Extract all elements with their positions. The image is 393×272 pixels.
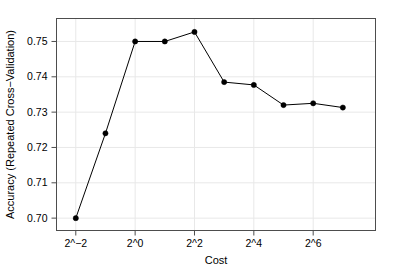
y-tick-label: 0.71 [27, 176, 48, 188]
x-tick-label: 2^2 [186, 237, 203, 249]
data-point [222, 80, 227, 85]
data-point [251, 82, 256, 87]
x-tick-label: 2^6 [305, 237, 322, 249]
data-point [73, 216, 78, 221]
data-point [192, 29, 197, 34]
x-tick-label: 2^4 [246, 237, 263, 249]
chart-container: 0.700.710.720.730.740.75 2^−22^02^22^42^… [0, 0, 393, 272]
data-point [311, 101, 316, 106]
y-tick-label: 0.72 [27, 141, 48, 153]
data-point [103, 131, 108, 136]
line-chart: 0.700.710.720.730.740.75 2^−22^02^22^42^… [0, 0, 393, 272]
y-tick-label: 0.70 [27, 212, 48, 224]
y-tick-label: 0.75 [27, 35, 48, 47]
y-axis-title: Accuracy (Repeated Cross−Validation) [4, 30, 16, 219]
x-tick-label: 2^0 [127, 237, 144, 249]
chart-background [0, 0, 393, 272]
data-point [162, 39, 167, 44]
data-point [133, 39, 138, 44]
y-tick-label: 0.74 [27, 70, 48, 82]
data-point [281, 102, 286, 107]
data-point [340, 105, 345, 110]
x-axis-title: Cost [205, 254, 228, 266]
x-tick-label: 2^−2 [64, 237, 87, 249]
y-tick-label: 0.73 [27, 106, 48, 118]
